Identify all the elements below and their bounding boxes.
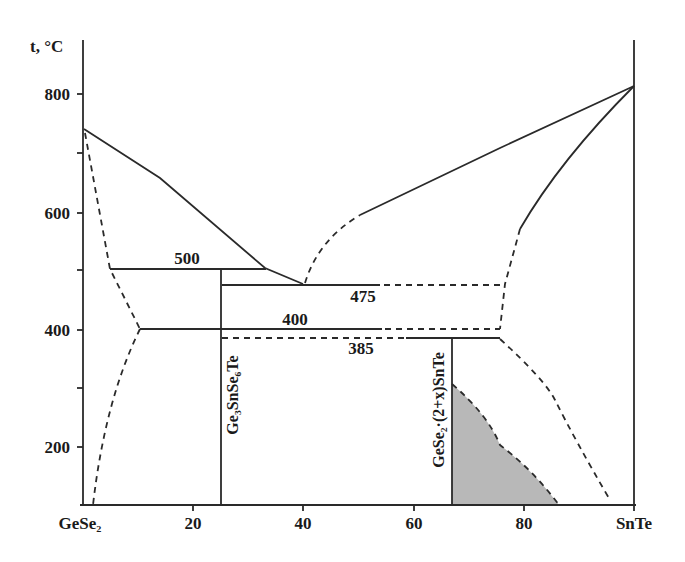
- y-tick-800: 800: [45, 85, 71, 104]
- label-475: 475: [350, 287, 376, 306]
- x-label-gese2: GeSe₂: [59, 514, 102, 533]
- label-500: 500: [174, 249, 200, 268]
- solidus-right: [520, 86, 634, 229]
- y-tick-600: 600: [45, 204, 71, 223]
- liquidus-right: [360, 86, 634, 215]
- gese2-solvus-lower: [93, 329, 140, 505]
- x-tick-20: 20: [185, 514, 202, 533]
- label-solid-solution: GeSe₂·(2+x)SnTe: [430, 352, 448, 468]
- liquidus-right-dashed: [305, 215, 360, 283]
- label-ge3snse6te: Ge₃SnSe₆Te: [224, 355, 241, 434]
- x-tick-40: 40: [295, 514, 312, 533]
- solidus-right-dashed: [500, 229, 520, 329]
- shaded-homogeneity-region: [452, 384, 559, 505]
- label-385: 385: [348, 339, 374, 358]
- phase-diagram: t, °C 800 600 400 200 GeSe₂ 20 40 60 80 …: [0, 0, 685, 562]
- x-label-snte: SnTe: [616, 514, 653, 533]
- y-tick-200: 200: [45, 438, 71, 457]
- y-tick-400: 400: [45, 321, 71, 340]
- x-tick-60: 60: [406, 514, 423, 533]
- label-400: 400: [282, 310, 308, 329]
- gese2-solvus-upper: [85, 133, 140, 329]
- y-axis-title: t, °C: [30, 37, 63, 56]
- x-tick-80: 80: [516, 514, 533, 533]
